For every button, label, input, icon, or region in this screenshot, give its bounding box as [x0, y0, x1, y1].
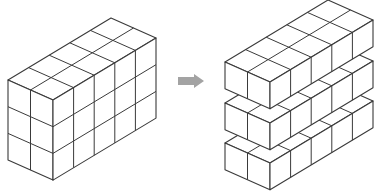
- left-cuboid: [8, 18, 156, 180]
- arrow-shape: [178, 74, 204, 88]
- diagram-canvas: [0, 0, 378, 195]
- right-arrow-icon: [178, 74, 204, 88]
- right-layered-cuboid: [225, 0, 373, 190]
- left-layer-0: [8, 18, 156, 180]
- cube-layer-diagram: [0, 0, 378, 195]
